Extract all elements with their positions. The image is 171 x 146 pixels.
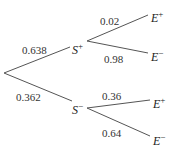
node-s-minus: S− <box>72 100 83 116</box>
prob-s-plus: 0.638 <box>22 45 47 56</box>
node-e-minus-upper: E− <box>151 47 163 63</box>
node-e-minus-lower: E− <box>153 131 165 146</box>
prob-s-minus: 0.362 <box>16 92 41 103</box>
prob-e-plus-given-s-minus: 0.36 <box>102 91 121 102</box>
node-e-plus-upper: E+ <box>151 8 163 24</box>
prob-e-minus-given-s-plus: 0.98 <box>104 54 123 65</box>
node-s-plus: S+ <box>72 40 83 56</box>
tree-lines <box>0 0 171 146</box>
prob-e-minus-given-s-minus: 0.64 <box>102 128 121 139</box>
branch-s-plus-to-e-minus <box>87 41 148 53</box>
prob-e-plus-given-s-plus: 0.02 <box>100 16 119 27</box>
node-e-plus-lower: E+ <box>153 94 165 110</box>
